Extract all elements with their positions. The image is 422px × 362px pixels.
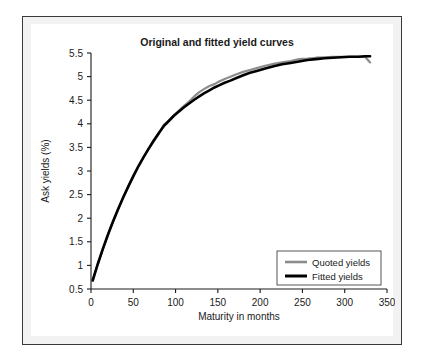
x-tick-label: 350: [379, 297, 395, 308]
x-axis-ticks: 050100150200250300350: [88, 289, 395, 308]
y-tick-label: 2.5: [69, 189, 83, 200]
x-axis-title: Maturity in months: [198, 311, 280, 322]
y-tick-label: 0.5: [69, 284, 83, 295]
y-tick-label: 1: [77, 260, 83, 271]
x-tick-label: 200: [252, 297, 269, 308]
legend-label-fitted-yields: Fitted yields: [312, 271, 363, 282]
x-tick-label: 150: [210, 297, 227, 308]
chart-series-group: [93, 56, 370, 280]
y-tick-label: 5.5: [69, 48, 83, 59]
figure-root: Original and fitted yield curves 0.511.5…: [0, 0, 422, 362]
y-tick-label: 1.5: [69, 236, 83, 247]
y-tick-label: 3: [77, 166, 83, 177]
x-tick-label: 50: [128, 297, 140, 308]
y-tick-label: 5: [77, 71, 83, 82]
y-tick-label: 2: [77, 213, 83, 224]
x-tick-label: 250: [294, 297, 311, 308]
y-tick-label: 3.5: [69, 142, 83, 153]
y-axis-ticks: 0.511.522.533.544.555.5: [69, 48, 91, 295]
yield-curve-chart: Original and fitted yield curves 0.511.5…: [31, 24, 395, 338]
y-tick-label: 4.5: [69, 95, 83, 106]
x-axis: 050100150200250300350 Maturity in months: [88, 289, 395, 322]
y-tick-label: 4: [77, 118, 83, 129]
figure-plate: Original and fitted yield curves 0.511.5…: [31, 24, 393, 336]
legend-label-quoted-yields: Quoted yields: [312, 257, 370, 268]
y-axis-title: Ask yields (%): [40, 139, 51, 202]
x-tick-label: 0: [88, 297, 94, 308]
x-tick-label: 100: [167, 297, 184, 308]
chart-legend[interactable]: Quoted yields Fitted yields: [277, 251, 381, 285]
y-axis: 0.511.522.533.544.555.5 Ask yields (%): [40, 48, 91, 295]
chart-title: Original and fitted yield curves: [140, 36, 294, 48]
series-line-quoted-yields: [93, 57, 370, 281]
series-line-fitted-yields: [93, 56, 370, 280]
figure-outer-frame: Original and fitted yield curves 0.511.5…: [22, 16, 402, 345]
x-tick-label: 300: [336, 297, 353, 308]
